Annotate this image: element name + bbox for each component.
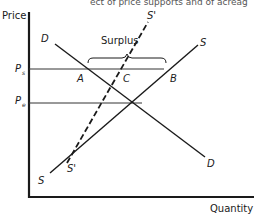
surplus-label: Surplus — [101, 35, 138, 46]
demand-curve — [55, 44, 205, 157]
supply-label-bottom: S — [38, 175, 45, 186]
restricted-supply-label-bottom: S' — [67, 163, 76, 174]
demand-label-bottom: D — [207, 158, 215, 169]
support-price-symbol: P — [15, 63, 22, 74]
point-b-label: B — [170, 73, 177, 84]
equilibrium-price-subscript: e — [22, 101, 26, 108]
y-axis-label: Price — [2, 10, 26, 21]
restricted-supply-label-top: S' — [147, 10, 156, 21]
x-axis-label: Quantity — [210, 203, 253, 214]
equilibrium-price-label: P e — [15, 95, 26, 108]
equilibrium-price-symbol: P — [15, 95, 22, 106]
point-a-label: A — [76, 73, 84, 84]
supply-demand-diagram: ect of price supports and of acreag Pric… — [0, 0, 256, 216]
support-price-label: P s — [15, 63, 25, 76]
demand-label-top: D — [41, 33, 49, 44]
supply-label-top: S — [200, 37, 207, 48]
support-price-subscript: s — [22, 69, 25, 76]
caption-text: ect of price supports and of acreag — [90, 0, 248, 7]
point-c-label: C — [123, 73, 130, 84]
